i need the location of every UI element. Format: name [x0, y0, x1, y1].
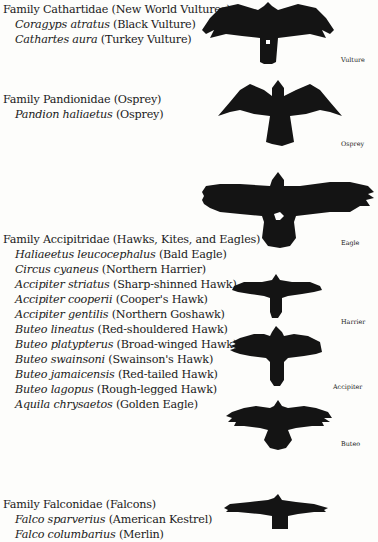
family-cathartidae: Family Cathartidae (New World Vultures) … — [3, 2, 231, 47]
buteo-silhouette-icon — [224, 400, 334, 452]
family-title: Family Falconidae (Falcons) — [3, 497, 212, 512]
species-item: Buteo lagopus (Rough-legged Hawk) — [3, 382, 260, 397]
species-item: Falco sparverius (American Kestrel) — [3, 512, 212, 527]
silhouette-label: Vulture — [341, 56, 365, 64]
family-title: Family Pandionidae (Osprey) — [3, 92, 163, 107]
family-accipitridae: Family Accipitridae (Hawks, Kites, and E… — [3, 232, 260, 412]
silhouette-label: Buteo — [341, 440, 360, 448]
osprey-silhouette-icon — [210, 80, 350, 150]
species-item: Aquila chrysaetos (Golden Eagle) — [3, 397, 260, 412]
family-title: Family Cathartidae (New World Vultures) — [3, 2, 231, 17]
falcon-silhouette-icon — [216, 492, 332, 529]
species-item: Falco columbarius (Merlin) — [3, 527, 212, 542]
harrier-silhouette-icon — [232, 274, 324, 318]
species-item: Cathartes aura (Turkey Vulture) — [3, 32, 231, 47]
silhouette-label: Eagle — [341, 239, 359, 247]
species-item: Pandion haliaetus (Osprey) — [3, 107, 163, 122]
species-item: Buteo lineatus (Red-shouldered Hawk) — [3, 322, 260, 337]
species-item: Accipiter gentilis (Northern Goshawk) — [3, 307, 260, 322]
species-item: Circus cyaneus (Northern Harrier) — [3, 262, 260, 277]
family-falconidae: Family Falconidae (Falcons) Falco sparve… — [3, 497, 212, 542]
family-pandionidae: Family Pandionidae (Osprey) Pandion hali… — [3, 92, 163, 122]
vulture-silhouette-icon — [198, 0, 338, 66]
silhouette-label: Harrier — [341, 318, 365, 326]
species-item: Buteo swainsoni (Swainson's Hawk) — [3, 352, 260, 367]
silhouette-label: Accipiter — [333, 383, 362, 391]
species-item: Accipiter cooperii (Cooper's Hawk) — [3, 292, 260, 307]
species-item: Buteo jamaicensis (Red-tailed Hawk) — [3, 367, 260, 382]
silhouette-label: Osprey — [341, 140, 364, 148]
species-item: Accipiter striatus (Sharp-shinned Hawk) — [3, 277, 260, 292]
species-item: Buteo platypterus (Broad-winged Hawk) — [3, 337, 260, 352]
accipiter-silhouette-icon — [228, 326, 324, 388]
species-item: Coragyps atratus (Black Vulture) — [3, 17, 231, 32]
